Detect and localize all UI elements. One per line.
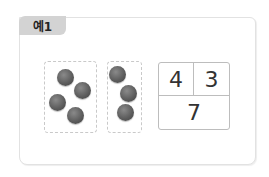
counter-dot-icon [109, 66, 126, 83]
whole-value: 7 [159, 96, 229, 129]
counter-dot-icon [67, 107, 84, 124]
counter-dot-icon [49, 94, 66, 111]
example-tab: 예1 [19, 16, 66, 35]
part-left-value: 4 [159, 63, 194, 96]
counter-dot-icon [120, 85, 137, 102]
example-label: 예1 [33, 17, 52, 34]
counter-dot-icon [57, 69, 74, 86]
counter-group-right [107, 61, 142, 133]
counter-dot-icon [74, 82, 91, 99]
part-right-value: 3 [194, 63, 229, 96]
number-bond-table: 4 3 7 [158, 62, 230, 130]
counter-group-left [44, 61, 97, 133]
counter-dot-icon [117, 104, 134, 121]
